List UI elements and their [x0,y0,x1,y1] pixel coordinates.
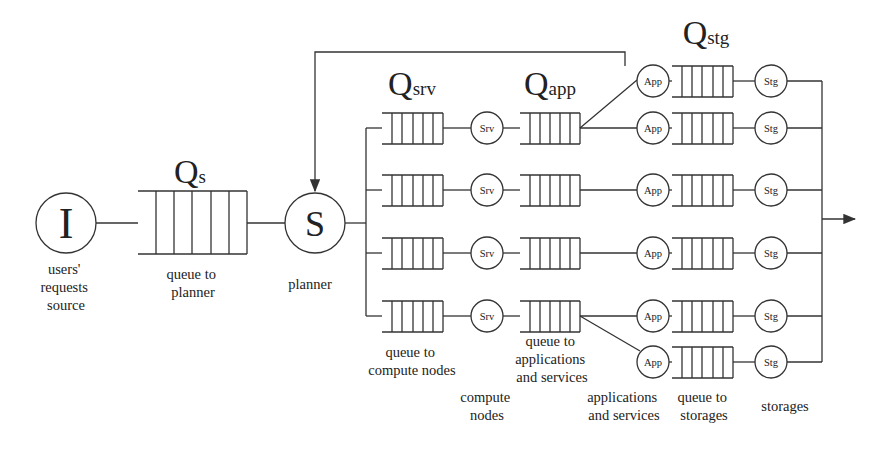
svg-text:App: App [644,248,662,259]
queueing-network-diagram: I Qs S Qsrv Qapp Qstg Srv [0,0,887,450]
svg-text:Stg: Stg [764,311,779,322]
svg-text:App: App [644,311,662,322]
planner-symbol: S [305,204,325,244]
feedback-edge [315,52,625,191]
source-node: I [36,193,96,253]
app-stg-rows: App Stg App Stg App Stg App Stg App [637,65,822,378]
srv-row-3: Srv [366,237,637,269]
svg-text:App: App [644,185,662,196]
storages-caption: storages [761,398,809,414]
planner-queue-label: Qs [174,153,206,190]
planner-queue-caption: queue to planner [166,266,219,300]
svg-text:Srv: Srv [480,311,495,322]
svg-text:Srv: Srv [480,248,495,259]
svg-text:Stg: Stg [764,123,779,134]
storage-queue-caption: queue to storages [677,389,730,423]
svg-text:Stg: Stg [764,76,779,87]
planner-queue [138,191,247,254]
compute-nodes-caption: compute nodes [460,389,514,423]
app-queue-caption: queue to applications and services [515,333,589,385]
svg-text:Srv: Srv [480,123,495,134]
svg-text:Srv: Srv [480,185,495,196]
svg-text:App: App [644,357,662,368]
source-caption: users' requests source [40,261,91,313]
app-queue-label: Qapp [524,65,576,102]
storage-queue-label: Qstg [683,14,730,51]
server-queue-caption: queue to compute nodes [368,344,456,378]
svg-text:Stg: Stg [764,357,779,368]
apps-caption: applications and services [587,389,661,423]
source-symbol: I [59,199,74,248]
planner-node: S [285,193,345,253]
svg-text:App: App [644,123,662,134]
srv-row-2: Srv [366,174,637,206]
svg-text:Stg: Stg [764,248,779,259]
svg-text:Stg: Stg [764,185,779,196]
svg-text:App: App [644,76,662,87]
planner-caption: planner [288,276,332,292]
server-queue-label: Qsrv [388,65,436,102]
